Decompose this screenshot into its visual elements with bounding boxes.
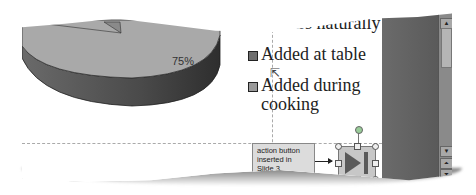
resize-handle-tl[interactable]: [335, 143, 342, 150]
move-cursor-icon: ⇱: [270, 66, 280, 80]
torn-screenshot: 75% Occurs naturally Added at table Adde…: [22, 10, 452, 182]
arrowhead-icon: [328, 158, 333, 164]
pie-slice-label: 75%: [172, 55, 194, 67]
resize-handle-tr[interactable]: [372, 143, 379, 150]
workspace-background: [382, 10, 438, 182]
legend-item: Added at table: [248, 45, 380, 64]
play-triangle-icon: [345, 152, 361, 174]
resize-handle-t[interactable]: [354, 143, 361, 150]
slide-canvas[interactable]: 75% Occurs naturally Added at table Adde…: [22, 10, 382, 182]
legend-item: Added during cooking: [248, 76, 366, 114]
chart-legend[interactable]: Occurs naturally Added at table Added du…: [248, 14, 380, 114]
legend-swatch: [248, 51, 258, 61]
legend-item: Occurs naturally: [248, 14, 380, 33]
previous-slide-button[interactable]: ⏶: [440, 158, 452, 169]
horizontal-guide: [22, 143, 382, 144]
end-bar-icon: [364, 152, 368, 174]
next-slide-button[interactable]: ⏷: [440, 169, 452, 180]
scroll-thumb[interactable]: [441, 28, 452, 68]
legend-swatch: [248, 82, 258, 92]
vertical-scrollbar[interactable]: ▲ ▼ ⏶ ⏷: [438, 10, 452, 182]
action-button-end[interactable]: [338, 146, 376, 180]
resize-handle-l[interactable]: [335, 160, 342, 167]
scroll-down-button[interactable]: ▼: [440, 146, 452, 157]
resize-handle-r[interactable]: [372, 160, 379, 167]
legend-swatch: [248, 20, 258, 30]
pie-chart[interactable]: [22, 10, 252, 120]
rotation-handle[interactable]: [355, 126, 363, 134]
